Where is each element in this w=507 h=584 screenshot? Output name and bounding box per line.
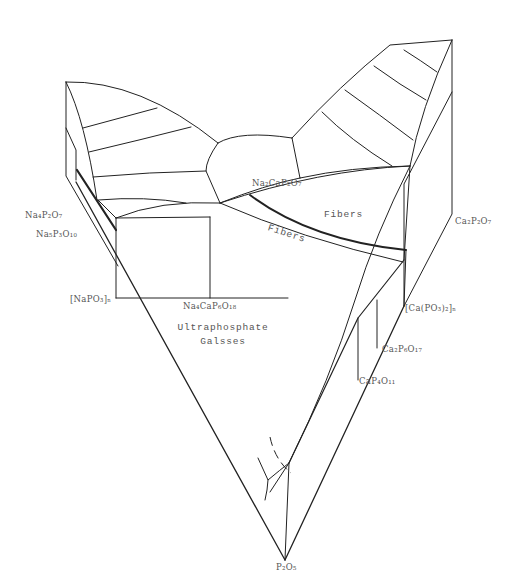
label-p2o5: P₂O₅ [276, 563, 297, 572]
p2o5-upper-branch [258, 458, 289, 480]
na2cap2o7-field-left-boundary [206, 143, 220, 203]
label-ca2p2o7: Ca₂P₂O₇ [455, 217, 492, 226]
left-base-edge [76, 182, 285, 560]
right-isotherm-2 [374, 66, 426, 100]
ca-wall-line-b [404, 166, 410, 260]
na2cap2o7-field-right-boundary [292, 138, 300, 178]
right-dome-top-curve [292, 40, 452, 138]
label-na4cap6o18: Na₄CaP₆O₁₈ [183, 302, 236, 311]
phase-diagram [0, 0, 507, 584]
left-wall-inner-edge [66, 128, 76, 180]
right-isotherm-1 [404, 50, 437, 72]
left-dome-left-curve [66, 82, 97, 200]
right-dome-lower-boundary [300, 166, 410, 178]
na2cap2o7-field-top-curve [218, 135, 292, 143]
fibers-lower-boundary [220, 203, 403, 262]
dashed-boundary [270, 437, 291, 473]
label-fibers-large: Fibers [324, 210, 363, 220]
label-cap4o11: CaP₄O₁₁ [359, 377, 396, 386]
label-na5p3o10: Na₅P₃O₁₀ [36, 230, 77, 239]
box-top-curve [116, 203, 220, 218]
right-wall-outer-edge [404, 40, 452, 306]
box-top-edge [116, 217, 210, 218]
ca-inner-diagonal-1 [289, 260, 404, 463]
label-ca2p6o17: Ca₂P₆O₁₇ [382, 345, 422, 354]
left-isotherm-2 [89, 127, 191, 152]
p2o5-side-branch [265, 480, 268, 500]
label-capo3n: [Ca(PO₃)₂]ₙ [405, 304, 456, 313]
p2o5-central-line [285, 463, 289, 560]
left-isotherm-1 [83, 108, 157, 128]
left-isotherm-3 [93, 171, 206, 177]
label-na2cap2o7: Na₂CaP₂O₇ [252, 179, 302, 188]
left-isotherm-4 [98, 199, 186, 203]
right-wall-inner-edge [404, 92, 452, 306]
center-lower-curve [220, 166, 410, 203]
label-napo3n: [NaPO₃]ₙ [70, 295, 111, 304]
left-thick-boundary [77, 170, 116, 230]
label-glasses: Galsses [168, 337, 278, 347]
right-isotherm-3 [345, 90, 413, 140]
right-isotherm-4 [322, 112, 392, 166]
p2o5-merge-line [270, 463, 289, 492]
label-ultraphosphate: Ultraphosphate [168, 323, 278, 333]
label-na4p2o7: Na₄P₂O₇ [25, 211, 63, 220]
